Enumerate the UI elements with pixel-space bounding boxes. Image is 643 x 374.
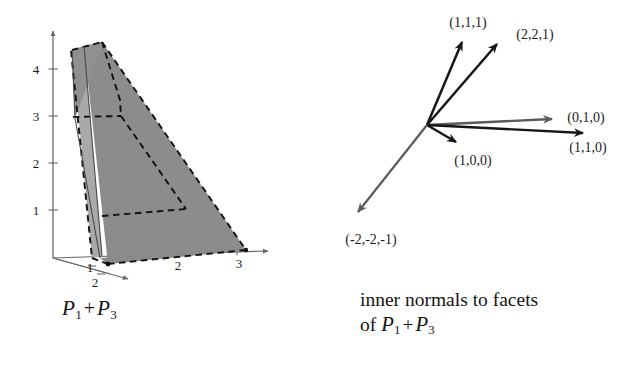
x-tick-label-2: 2 (175, 258, 182, 273)
label-vector-1-1-0: (1,1,0) (569, 140, 607, 156)
polytope-plot: 1 2 3 4 2 3 1 2 (0, 0, 330, 300)
caption-right-symbol-1: P (381, 313, 394, 335)
polytope-facet-main (84, 42, 246, 264)
figure-root: 1 2 3 4 2 3 1 2 (0, 0, 643, 374)
ground-line-left (53, 258, 110, 274)
y-tick-label-2: 2 (33, 156, 40, 171)
label-vector-neg2-neg2-neg1: (-2,-2,-1) (345, 232, 397, 248)
vectors-group (358, 42, 583, 212)
label-vector-0-1-0: (0,1,0) (567, 110, 605, 126)
caption-left-sub-1: 1 (75, 307, 82, 322)
arrow-vector-1-1-1 (427, 42, 462, 125)
right-panel-normals: (1,1,1) (2,2,1) (0,1,0) (1,1,0) (1,0,0) … (330, 0, 643, 374)
caption-right-line2: of P1+P3 (360, 312, 538, 339)
label-vector-1-0-0: (1,0,0) (454, 153, 492, 169)
arrow-vector-1-1-0 (427, 125, 583, 133)
caption-left-polytope: P1+P3 (62, 296, 117, 323)
caption-right-normals: inner normals to facets of P1+P3 (360, 288, 538, 339)
caption-left-symbol-2: P (97, 296, 110, 320)
arrow-vector-2-2-1 (427, 44, 497, 125)
caption-left-symbol-1: P (62, 296, 75, 320)
left-panel-polytope: 1 2 3 4 2 3 1 2 (0, 0, 330, 374)
z-tick-label-1: 1 (87, 260, 94, 275)
caption-right-sub-2: 3 (428, 323, 435, 337)
normal-vectors-plot: (1,1,1) (2,2,1) (0,1,0) (1,1,0) (1,0,0) … (330, 0, 643, 290)
caption-left-sub-2: 3 (110, 307, 117, 322)
arrow-vector-0-1-0 (427, 119, 552, 125)
caption-right-prefix: of (360, 314, 376, 335)
x-tick-label-3: 3 (236, 256, 243, 271)
y-tick-label-4: 4 (33, 62, 40, 77)
y-tick-label-1: 1 (33, 203, 40, 218)
y-tick-label-3: 3 (33, 109, 40, 124)
label-vector-1-1-1: (1,1,1) (449, 15, 487, 31)
caption-right-symbol-2: P (415, 313, 428, 335)
polytope-body (72, 42, 246, 264)
label-vector-2-2-1: (2,2,1) (516, 27, 554, 43)
caption-right-line1: inner normals to facets (360, 288, 538, 312)
caption-left-operator: + (82, 297, 97, 319)
z-tick-label-2: 2 (92, 275, 99, 290)
arrow-vector-1-0-0 (427, 125, 456, 142)
arrow-vector-neg2-neg2-neg1 (358, 125, 427, 212)
caption-right-operator: + (400, 314, 415, 335)
vertex-bottom-front (106, 262, 111, 267)
vertex-bottom-right (244, 248, 248, 252)
